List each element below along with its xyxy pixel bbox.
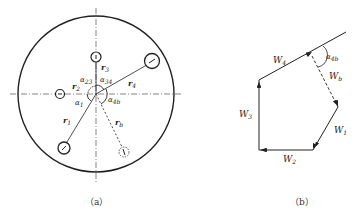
angle-arc-alpha34 <box>96 85 104 90</box>
svg-text:α1: α1 <box>75 99 84 108</box>
svg-text:α23: α23 <box>80 76 93 85</box>
svg-text:W2: W2 <box>283 154 296 165</box>
angle-arc-alpha1 <box>87 94 91 101</box>
figure-a-rotor: r2 α23 r3 α34 r4 α1 α4b r1 rb （a） <box>10 8 182 207</box>
svg-text:W1: W1 <box>334 125 347 136</box>
svg-text:α34: α34 <box>100 76 113 85</box>
vector-Wb <box>312 56 338 107</box>
svg-text:Wb: Wb <box>329 71 342 82</box>
angle-arc-alpha23 <box>88 86 96 93</box>
svg-text:W4: W4 <box>273 55 286 66</box>
svg-text:r1: r1 <box>63 115 71 126</box>
svg-text:r2: r2 <box>72 81 80 92</box>
svg-text:rb: rb <box>115 117 123 128</box>
svg-text:α4b: α4b <box>326 53 339 62</box>
svg-text:r3: r3 <box>101 62 109 73</box>
balance-diagram: r2 α23 r3 α34 r4 α1 α4b r1 rb （a） <box>0 0 352 220</box>
caption-a: （a） <box>85 197 108 207</box>
svg-text:W3: W3 <box>239 109 252 120</box>
caption-b: （b） <box>290 197 314 207</box>
angle-arc-alpha4b <box>101 89 107 104</box>
svg-text:α4b: α4b <box>108 96 121 105</box>
figure-b-force-polygon: W4 α4b Wb W3 W1 W2 （b） <box>239 32 347 207</box>
svg-text:r4: r4 <box>128 78 136 89</box>
